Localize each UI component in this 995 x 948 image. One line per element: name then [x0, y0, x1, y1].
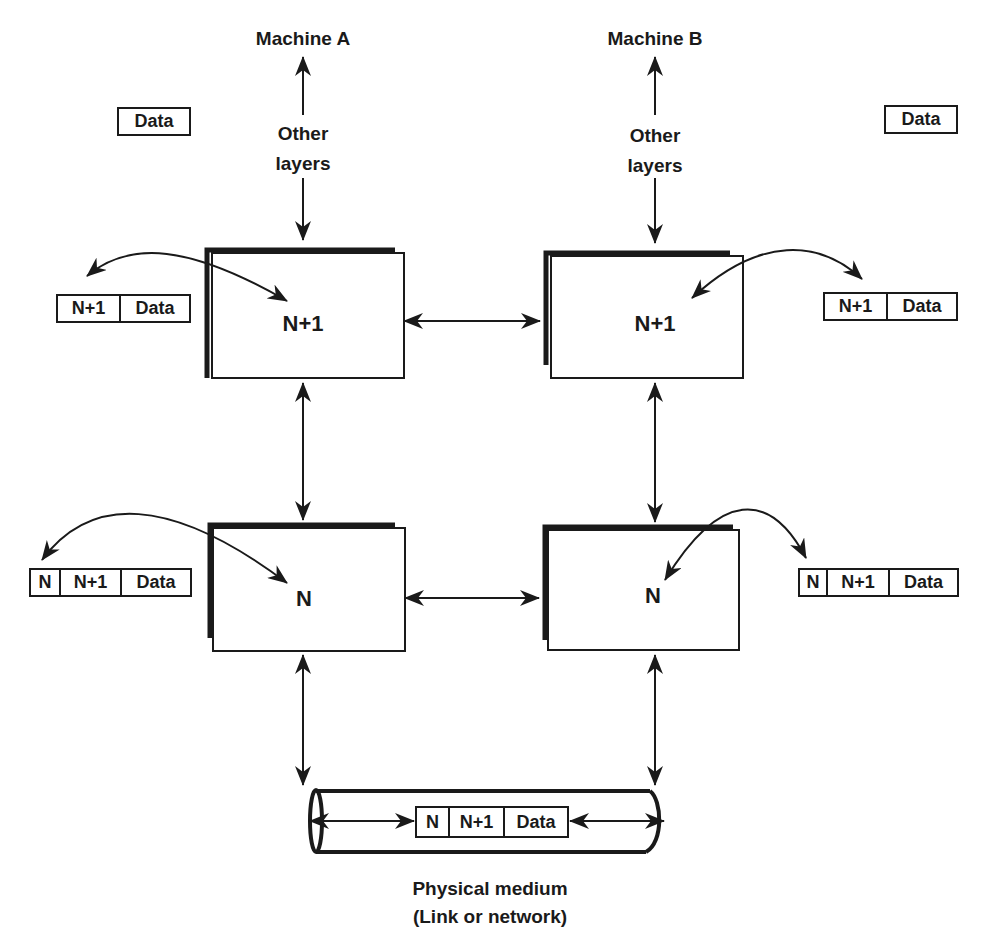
machine-a-title: Machine A: [213, 27, 393, 51]
other-layers-b-line2: layers: [605, 151, 705, 181]
packet-cell-header-n1: N+1: [450, 808, 505, 836]
physical-medium-subtitle: (Link or network): [340, 903, 640, 931]
physical-medium-title: Physical medium: [340, 875, 640, 903]
packet-cell-data: Data: [886, 107, 956, 132]
other-layers-a-line1: Other: [253, 119, 353, 149]
packet-cell-data: Data: [505, 808, 567, 836]
other-layers-b: Other layers: [605, 121, 705, 181]
packet-cell-header-n: N: [800, 570, 828, 595]
packet-cell-header-n: N: [417, 808, 450, 836]
packet-cell-data: Data: [122, 570, 190, 595]
layer-label-b-upper: N+1: [605, 311, 705, 337]
layer-label-a-upper: N+1: [253, 311, 353, 337]
packet-medium: N N+1 Data: [415, 806, 569, 838]
packet-cell-header-n: N: [31, 570, 61, 595]
physical-medium-caption: Physical medium (Link or network): [340, 875, 640, 931]
packet-cell-data: Data: [890, 570, 957, 595]
packet-cell-data: Data: [121, 296, 189, 321]
other-layers-b-line1: Other: [605, 121, 705, 151]
packet-a-lower: N N+1 Data: [29, 568, 192, 597]
packet-b-top: Data: [884, 105, 958, 134]
packet-cell-header-n1: N+1: [58, 296, 121, 321]
packet-cell-header-n1: N+1: [828, 570, 890, 595]
packet-b-lower: N N+1 Data: [798, 568, 959, 597]
packet-cell-header-n1: N+1: [825, 294, 888, 319]
packet-cell-header-n1: N+1: [61, 570, 122, 595]
packet-b-upper: N+1 Data: [823, 292, 958, 321]
layer-label-b-lower: N: [603, 583, 703, 609]
packet-cell-data: Data: [888, 294, 956, 319]
machine-b-title: Machine B: [565, 27, 745, 51]
packet-cell-data: Data: [119, 109, 189, 134]
other-layers-a: Other layers: [253, 119, 353, 179]
packet-a-upper: N+1 Data: [56, 294, 191, 323]
packet-a-top: Data: [117, 107, 191, 136]
other-layers-a-line2: layers: [253, 149, 353, 179]
layer-label-a-lower: N: [254, 586, 354, 612]
